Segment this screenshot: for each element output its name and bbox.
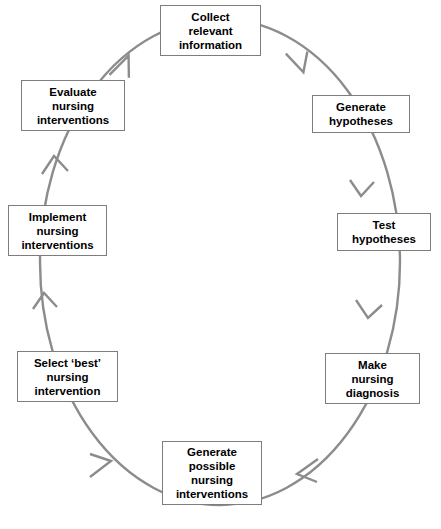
node-make-nursing-diagnosis: Make nursing diagnosis bbox=[325, 353, 420, 404]
node-test-hypotheses: Test hypotheses bbox=[337, 213, 431, 251]
node-generate-possible-nursing-interventions: Generate possible nursing interventions bbox=[162, 441, 262, 505]
arrowhead-to-select-best-nursing-intervention bbox=[90, 454, 111, 477]
node-collect-relevant-information: Collect relevant information bbox=[160, 5, 261, 56]
nursing-process-cycle-diagram: Collect relevant information Generate hy… bbox=[0, 0, 441, 529]
arrowhead-to-implement-nursing-interventions bbox=[33, 293, 57, 309]
node-select-best-nursing-intervention: Select ‘best’ nursing intervention bbox=[17, 351, 118, 402]
node-generate-hypotheses: Generate hypotheses bbox=[312, 95, 410, 133]
arrowhead-to-make-nursing-diagnosis bbox=[356, 300, 382, 318]
arrowhead-to-generate-hypotheses bbox=[284, 49, 308, 73]
node-implement-nursing-interventions: Implement nursing interventions bbox=[8, 205, 107, 256]
arrowhead-to-test-hypotheses bbox=[350, 180, 374, 196]
node-evaluate-nursing-interventions: Evaluate nursing interventions bbox=[21, 80, 125, 131]
